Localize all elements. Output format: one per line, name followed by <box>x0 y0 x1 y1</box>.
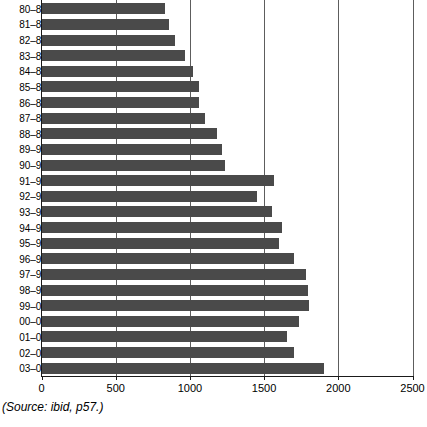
category-label: 02–03 <box>0 349 47 359</box>
bar-row: 99–00 <box>0 298 427 314</box>
bar-row: 82–83 <box>0 32 427 48</box>
category-label: 99–00 <box>0 302 47 312</box>
category-label: 88–89 <box>0 130 47 140</box>
category-label: 98–99 <box>0 286 47 296</box>
bar-row: 03–04 <box>0 360 427 376</box>
x-tick-label-2500: 2500 <box>400 382 424 394</box>
bar <box>42 316 299 327</box>
category-label: 94–95 <box>0 224 47 234</box>
bar-row: 87–88 <box>0 110 427 126</box>
category-label: 92–93 <box>0 192 47 202</box>
bar <box>42 97 199 108</box>
category-label: 83–84 <box>0 52 47 62</box>
bar-row: 01–02 <box>0 329 427 345</box>
source-note: (Source: ibid, p57.) <box>2 400 103 414</box>
bar <box>42 300 309 311</box>
bar-row: 93–94 <box>0 204 427 220</box>
bar <box>42 285 308 296</box>
x-tick-label-1000: 1000 <box>178 382 202 394</box>
bar <box>42 3 165 14</box>
category-label: 86–87 <box>0 99 47 109</box>
bar-row: 80–81 <box>0 1 427 17</box>
bar-row: 84–85 <box>0 64 427 80</box>
bar-row: 85–86 <box>0 79 427 95</box>
bar <box>42 144 222 155</box>
bar <box>42 269 306 280</box>
bar <box>42 35 175 46</box>
bar-row: 97–98 <box>0 267 427 283</box>
bar <box>42 19 169 30</box>
category-label: 97–98 <box>0 270 47 280</box>
bar-row: 95–96 <box>0 235 427 251</box>
bar <box>42 66 193 77</box>
x-tick-label-500: 500 <box>107 382 125 394</box>
x-tick-label-2000: 2000 <box>326 382 350 394</box>
category-label: 89–90 <box>0 145 47 155</box>
bar <box>42 253 294 264</box>
x-tick-label-0: 0 <box>38 382 44 394</box>
bar-row: 94–95 <box>0 220 427 236</box>
category-label: 82–83 <box>0 36 47 46</box>
category-label: 96–97 <box>0 255 47 265</box>
category-label: 81–82 <box>0 20 47 30</box>
bar-row: 91–92 <box>0 173 427 189</box>
bar-chart: 80–8181–8282–8383–8484–8585–8686–8787–88… <box>0 0 427 427</box>
bar <box>42 113 205 124</box>
bar <box>42 160 225 171</box>
category-label: 80–81 <box>0 5 47 15</box>
category-label: 01–02 <box>0 333 47 343</box>
category-label: 85–86 <box>0 83 47 93</box>
bar <box>42 128 217 139</box>
bar-row: 88–89 <box>0 126 427 142</box>
bar-row: 83–84 <box>0 48 427 64</box>
bars-layer: 80–8181–8282–8383–8484–8585–8686–8787–88… <box>0 0 427 376</box>
category-label: 91–92 <box>0 177 47 187</box>
bar <box>42 347 294 358</box>
x-axis-line <box>41 376 413 377</box>
category-label: 87–88 <box>0 114 47 124</box>
bar <box>42 222 282 233</box>
bar <box>42 191 257 202</box>
bar-row: 98–99 <box>0 282 427 298</box>
bar <box>42 81 199 92</box>
bar-row: 92–93 <box>0 189 427 205</box>
category-label: 90–91 <box>0 161 47 171</box>
category-label: 95–96 <box>0 239 47 249</box>
bar-row: 89–90 <box>0 142 427 158</box>
bar <box>42 206 272 217</box>
category-label: 93–94 <box>0 208 47 218</box>
bar-row: 00–01 <box>0 314 427 330</box>
x-tick-label-1500: 1500 <box>252 382 276 394</box>
bar-row: 90–91 <box>0 157 427 173</box>
bar <box>42 50 185 61</box>
bar <box>42 331 287 342</box>
bar <box>42 363 324 374</box>
category-label: 84–85 <box>0 67 47 77</box>
bar-row: 02–03 <box>0 345 427 361</box>
category-label: 00–01 <box>0 317 47 327</box>
bar-row: 81–82 <box>0 17 427 33</box>
bar <box>42 175 274 186</box>
bar <box>42 238 279 249</box>
bar-row: 96–97 <box>0 251 427 267</box>
category-label: 03–04 <box>0 364 47 374</box>
bar-row: 86–87 <box>0 95 427 111</box>
